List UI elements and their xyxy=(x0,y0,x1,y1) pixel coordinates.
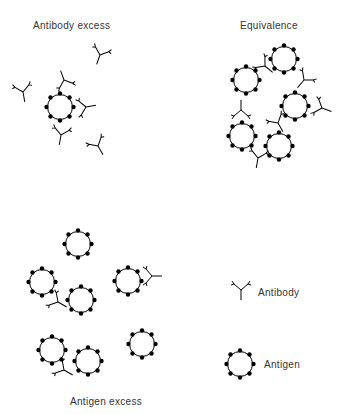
antibody-legend-icon xyxy=(231,281,251,300)
antigen-icon xyxy=(268,43,299,74)
antigen-icon xyxy=(126,328,157,359)
antibody-icon xyxy=(75,95,97,118)
panel-antigen-excess xyxy=(26,228,162,383)
antibody-icon xyxy=(231,100,251,119)
antibody-icon xyxy=(85,133,112,159)
antigen-icon xyxy=(226,120,257,151)
antibody-icon xyxy=(310,96,335,121)
antibody-icon xyxy=(87,43,112,68)
antigen-icon xyxy=(26,266,57,297)
antigen-icon xyxy=(65,284,96,315)
antibody-icon xyxy=(143,266,162,286)
panel-equivalence xyxy=(226,43,335,169)
antibody-icon xyxy=(290,67,318,94)
antigen-icon xyxy=(112,265,143,296)
antigen-icon xyxy=(62,228,93,259)
antibody-icon xyxy=(45,289,71,316)
antigen-icon xyxy=(72,345,103,376)
immune-complex-diagram xyxy=(0,0,341,414)
antibody-icon xyxy=(51,67,76,92)
antibody-icon xyxy=(12,81,35,103)
antigen-icon xyxy=(44,91,75,122)
antigen-icon xyxy=(263,130,294,161)
antigen-icon xyxy=(279,90,310,121)
legend xyxy=(224,281,255,380)
antibody-icon xyxy=(246,147,269,169)
antibody-icon xyxy=(49,124,72,146)
antigen-legend-icon xyxy=(224,348,255,379)
antigen-icon xyxy=(230,64,261,95)
panel-antibody-excess xyxy=(12,43,113,160)
